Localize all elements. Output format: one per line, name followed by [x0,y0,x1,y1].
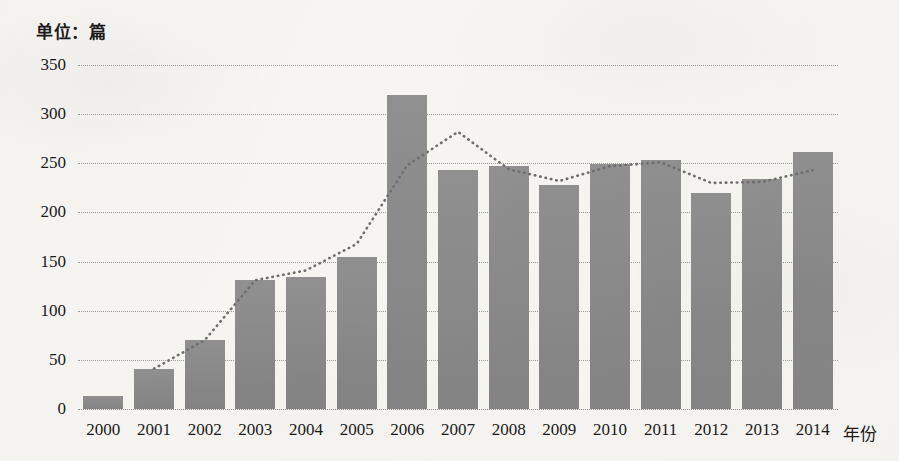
x-axis-label-2004: 2004 [289,420,323,440]
x-axis-title: 年份 [843,420,877,445]
trend-line-path [154,132,813,369]
y-axis-label-0: 0 [58,399,67,419]
x-axis-label-2006: 2006 [390,420,424,440]
x-axis-label-2007: 2007 [441,420,475,440]
trend-line-svg [78,65,838,409]
unit-label: 单位：篇 [36,18,106,43]
x-axis-label-2001: 2001 [137,420,171,440]
y-axis-label-350: 350 [41,55,67,75]
x-axis-label-2009: 2009 [542,420,576,440]
y-axis-label-250: 250 [41,153,67,173]
x-axis-label-2005: 2005 [340,420,374,440]
x-axis-label-2012: 2012 [694,420,728,440]
y-axis-label-200: 200 [41,202,67,222]
plot-area: 050100150200250300350 [78,65,838,409]
y-axis-label-50: 50 [49,350,66,370]
y-axis-label-100: 100 [41,301,67,321]
gridline-0 [78,409,838,410]
y-axis-label-150: 150 [41,252,67,272]
x-axis-label-2000: 2000 [86,420,120,440]
trend-line-group [78,65,838,409]
bar-chart: 单位：篇 050100150200250300350 2000200120022… [0,0,899,461]
x-axis-label-2002: 2002 [188,420,222,440]
x-axis-label-2014: 2014 [796,420,830,440]
x-axis-label-2011: 2011 [644,420,677,440]
x-axis-ticks: 2000200120022003200420052006200720082009… [78,420,838,456]
y-axis-label-300: 300 [41,104,67,124]
x-axis-label-2010: 2010 [593,420,627,440]
x-axis-label-2013: 2013 [745,420,779,440]
x-axis-label-2008: 2008 [492,420,526,440]
x-axis-label-2003: 2003 [238,420,272,440]
